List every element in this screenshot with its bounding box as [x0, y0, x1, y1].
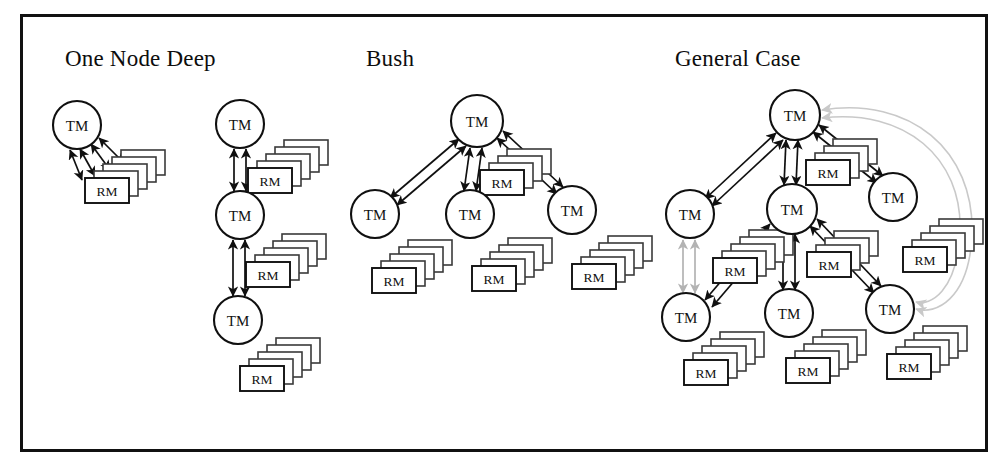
tm-label: TM	[561, 203, 584, 219]
link-gc-tc-a	[784, 140, 786, 185]
figure-canvas: One Node Deep Bush General Case	[0, 0, 1000, 469]
rm-stack-ond-a-rm: RM	[85, 150, 165, 203]
rm-stack-bush-c-rm: RM	[472, 238, 552, 291]
rm-stack-gc-bc-rm: RM	[786, 330, 866, 383]
rm-stack-bush-top-rm: RM	[480, 149, 551, 195]
tm-node-gc-mid: TM	[767, 184, 817, 234]
tm-label: TM	[778, 306, 801, 322]
rm-label: RM	[251, 372, 272, 387]
rm-label: RM	[491, 176, 512, 191]
tm-label: TM	[675, 310, 698, 326]
rm-label: RM	[818, 258, 839, 273]
rm-label: RM	[797, 364, 818, 379]
link-gc-tc-b	[796, 140, 798, 185]
tm-label: TM	[879, 302, 902, 318]
link-ond-a-4	[70, 150, 82, 180]
tm-node-ond-b-tm3: TM	[214, 296, 262, 344]
rm-label: RM	[383, 274, 404, 289]
tm-node-bush-top: TM	[451, 95, 503, 147]
rm-label: RM	[817, 166, 838, 181]
tm-node-gc-left: TM	[666, 190, 714, 238]
tm-nodes-layer: TMTMTMTMTMTMTMTMTMTMTMTMTMTMTM	[53, 90, 917, 344]
tm-node-gc-right: TM	[869, 173, 917, 221]
rm-stack-bush-l-rm: RM	[372, 240, 452, 293]
tm-label: TM	[364, 207, 387, 223]
tm-node-gc-bl: TM	[662, 293, 710, 341]
rm-label: RM	[914, 253, 935, 268]
rm-stack-gc-mid-rm: RM	[807, 231, 878, 277]
rm-stack-ond-b-rm2: RM	[246, 234, 326, 287]
link-gc-tl-a	[705, 133, 776, 199]
tm-label: TM	[66, 118, 89, 134]
tm-label: TM	[459, 207, 482, 223]
rm-label: RM	[96, 184, 117, 199]
tm-label: TM	[227, 313, 250, 329]
rm-label: RM	[583, 270, 604, 285]
tm-node-ond-b-tm1: TM	[216, 100, 264, 148]
tm-node-gc-top: TM	[770, 90, 820, 140]
rm-label: RM	[257, 268, 278, 283]
rm-label: RM	[483, 272, 504, 287]
tm-node-bush-l: TM	[351, 190, 399, 238]
rm-label: RM	[259, 174, 280, 189]
link-bush-tc-a	[464, 148, 470, 191]
rm-stack-gc-rt-rm: RM	[903, 219, 983, 272]
link-bush-tl-a	[390, 139, 459, 198]
tm-label: TM	[882, 190, 905, 206]
rm-label: RM	[898, 360, 919, 375]
tm-node-ond-b-tm2: TM	[216, 191, 264, 239]
diagram-svg: RMRMRMRMRMRMRMRMRMRMRMRMRMRMRM TMTMTMTMT…	[0, 0, 1000, 469]
link-ond-a-2	[80, 149, 95, 176]
tm-node-bush-c: TM	[446, 190, 494, 238]
tm-node-bush-r: TM	[548, 186, 596, 234]
rm-label: RM	[695, 366, 716, 381]
tm-label: TM	[781, 202, 804, 218]
tm-label: TM	[466, 114, 489, 130]
tm-label: TM	[229, 117, 252, 133]
tm-label: TM	[784, 108, 807, 124]
tm-node-ond-a-tm: TM	[53, 101, 101, 149]
rm-label: RM	[724, 264, 745, 279]
rm-stack-ond-b-rm3: RM	[240, 338, 320, 391]
rm-stack-bush-r-rm: RM	[572, 236, 652, 289]
rm-stack-gc-top-rm: RM	[806, 139, 877, 185]
tm-node-gc-bc: TM	[765, 289, 813, 337]
rm-stack-ond-b-rm1: RM	[248, 140, 328, 193]
tm-label: TM	[679, 207, 702, 223]
rm-stacks-layer: RMRMRMRMRMRMRMRMRMRMRMRMRMRMRM	[85, 139, 983, 391]
rm-stack-gc-br-rm: RM	[887, 326, 967, 379]
tm-node-gc-br: TM	[866, 285, 914, 333]
tm-label: TM	[229, 208, 252, 224]
rm-stack-gc-left-rm: RM	[713, 230, 793, 283]
